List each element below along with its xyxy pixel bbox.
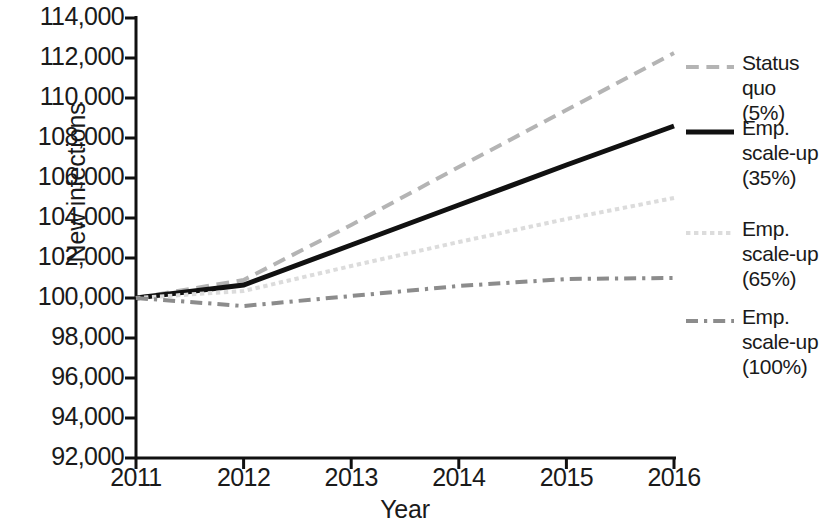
- legend-swatch: [686, 228, 734, 238]
- series-line-1: [136, 53, 674, 298]
- y-tick-label: 94,000: [4, 404, 124, 429]
- x-tick-label: 2016: [614, 463, 734, 492]
- y-tick-label: 98,000: [4, 324, 124, 349]
- legend-label: Emp.scale-up(65%): [742, 216, 822, 291]
- y-tick-label: 108,000: [4, 124, 124, 149]
- y-tick-label: 106,000: [4, 164, 124, 189]
- axis-lines: [125, 16, 676, 469]
- x-tick-label: 2015: [506, 463, 626, 492]
- legend-swatch: [686, 62, 734, 72]
- y-tick-label: 114,000: [4, 4, 124, 29]
- y-tick-label: 112,000: [4, 44, 124, 69]
- x-axis-title: Year: [136, 495, 674, 524]
- y-tick-label: 96,000: [4, 364, 124, 389]
- y-axis-tick-labels: 114,000112,000110.000108,000106,000104,0…: [0, 0, 124, 528]
- legend-label: Statusquo (5%): [742, 50, 822, 125]
- x-tick-label: 2011: [76, 463, 196, 492]
- legend-swatch: [686, 316, 734, 326]
- legend-label: Emp.scale-up(35%): [742, 115, 822, 190]
- legend-swatch: [686, 127, 734, 137]
- y-tick-label: 102,000: [4, 244, 124, 269]
- x-tick-label: 2014: [399, 463, 519, 492]
- legend-label: Emp.scale-up(100%): [742, 304, 822, 379]
- series-lines: [136, 53, 674, 306]
- y-tick-label: 100,000: [4, 284, 124, 309]
- x-tick-label: 2012: [184, 463, 304, 492]
- x-tick-label: 2013: [291, 463, 411, 492]
- y-tick-label: 110.000: [4, 84, 124, 109]
- y-tick-label: 104,000: [4, 204, 124, 229]
